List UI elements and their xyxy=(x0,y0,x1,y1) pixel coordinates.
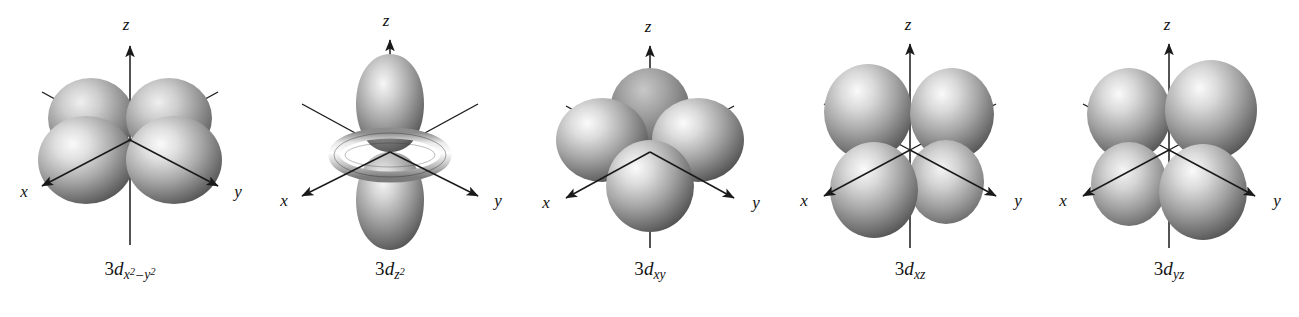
orbital-lobe xyxy=(126,116,222,204)
y-axis-label: y xyxy=(750,193,760,212)
orbital-diagram-3d-yz: z x y xyxy=(1039,0,1299,262)
orbital-lobe xyxy=(38,116,134,204)
sub-second-var: y xyxy=(660,267,666,282)
orbital-label-subscript: x2–y2 xyxy=(124,267,156,282)
orbital-lobe xyxy=(908,140,984,224)
orbital-label-digit: 3 xyxy=(634,258,644,279)
sub-second-var: z xyxy=(920,267,925,282)
sub-second-exp: 2 xyxy=(150,264,155,276)
orbital-label-letter: d xyxy=(644,258,654,279)
orbital-label-digit: 3 xyxy=(375,258,385,279)
orbital-panel-3d-xz: z x y 3dxz xyxy=(780,0,1040,317)
sub-first-exp: 2 xyxy=(400,264,405,276)
z-axis-label: z xyxy=(644,17,652,36)
x-axis-label: x xyxy=(1058,191,1067,210)
orbital-diagram-3d-x2-y2: z x y xyxy=(0,0,260,262)
orbital-label-digit: 3 xyxy=(104,258,114,279)
orbital-lobe xyxy=(1091,142,1167,226)
orbital-panel-3d-yz: z x y 3dyz xyxy=(1039,0,1299,317)
orbital-panel-3d-xy: z x y 3dxy xyxy=(520,0,780,317)
orbital-label-3d-xy: 3dxy xyxy=(520,258,780,283)
orbital-label-3d-z2: 3dz2 xyxy=(260,258,520,283)
y-axis-label: y xyxy=(492,191,502,210)
orbital-label-3d-xz: 3dxz xyxy=(780,258,1040,283)
z-axis-label: z xyxy=(382,11,390,30)
x-axis-label: x xyxy=(799,191,808,210)
orbital-label-subscript: xz xyxy=(914,267,925,282)
orbital-panel-3d-x2-y2: z x y 3dx2–y2 xyxy=(0,0,260,317)
x-axis-label: x xyxy=(19,182,28,201)
orbital-label-subscript: z2 xyxy=(394,267,405,282)
orbital-label-letter: d xyxy=(904,258,914,279)
orbital-label-3d-yz: 3dyz xyxy=(1039,258,1299,283)
orbital-figure: z x y 3dx2–y2 xyxy=(0,0,1299,317)
orbital-label-subscript: xy xyxy=(654,267,666,282)
y-axis-label: y xyxy=(1012,191,1022,210)
orbital-lobe xyxy=(830,142,918,238)
y-axis-label: y xyxy=(232,182,242,201)
orbital-lobe xyxy=(1159,144,1247,240)
orbital-diagram-3d-xz: z x y xyxy=(780,0,1040,262)
sub-second-var: z xyxy=(1179,267,1184,282)
orbital-label-digit: 3 xyxy=(1154,258,1164,279)
orbital-diagram-3d-z2: z x y xyxy=(260,0,520,262)
orbital-label-letter: d xyxy=(1163,258,1173,279)
x-axis-label: x xyxy=(541,193,550,212)
x-axis-label: x xyxy=(279,191,288,210)
z-axis-label: z xyxy=(122,15,130,34)
z-axis-label: z xyxy=(1163,15,1171,34)
orbital-lobe xyxy=(606,140,694,232)
orbital-label-letter: d xyxy=(385,258,395,279)
orbital-label-subscript: yz xyxy=(1173,267,1184,282)
orbital-panel-3d-z2: z x y 3dz2 xyxy=(260,0,520,317)
y-axis-label: y xyxy=(1271,191,1281,210)
sub-operator: – xyxy=(135,267,144,282)
orbital-label-letter: d xyxy=(114,258,124,279)
orbital-label-3d-x2-y2: 3dx2–y2 xyxy=(0,258,260,283)
z-axis-label: z xyxy=(904,15,912,34)
orbital-label-digit: 3 xyxy=(895,258,905,279)
orbital-diagram-3d-xy: z x y xyxy=(520,0,780,262)
